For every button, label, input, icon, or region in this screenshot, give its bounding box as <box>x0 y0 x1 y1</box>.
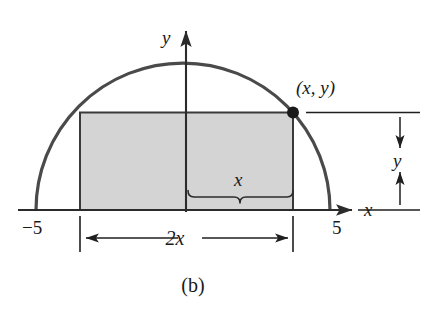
y-axis-label: y <box>160 27 171 48</box>
tick-label-five: 5 <box>332 217 342 238</box>
figure-caption: (b) <box>181 274 204 297</box>
half-width-label: x <box>233 169 243 190</box>
tick-label-minus-five: −5 <box>22 217 42 238</box>
figure-container: x y −5 5 (x, y) y x 2x (b) <box>0 0 426 311</box>
width-dimension-label: 2x <box>166 227 185 249</box>
point-coordinate-label: (x, y) <box>296 77 335 99</box>
semicircle-rectangle-diagram: x y −5 5 (x, y) y x 2x (b) <box>0 0 426 311</box>
vertex-point-marker <box>287 107 299 119</box>
height-dimension-label: y <box>391 150 402 171</box>
